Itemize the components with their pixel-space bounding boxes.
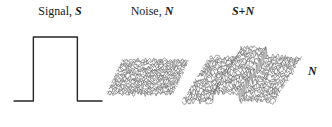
noise-label-symbol: N — [165, 4, 174, 18]
signal-noise-figure: Signal, S Noise, N S+N N — [0, 0, 332, 127]
signal-plus-noise-waterfall-svg — [178, 22, 306, 114]
corner-noise-label: N — [308, 65, 317, 77]
signal-label-symbol: S — [75, 4, 82, 18]
signal-pulse-plot — [12, 33, 104, 107]
corner-noise-symbol: N — [308, 64, 317, 78]
noise-label-text: Noise, — [131, 4, 165, 18]
signal-plus-noise-waterfall-plot — [178, 22, 306, 114]
sum-label-symbol: S+N — [232, 4, 254, 18]
sum-panel-label: S+N — [208, 4, 278, 18]
signal-pulse-svg — [12, 33, 104, 107]
signal-panel-label: Signal, S — [18, 4, 102, 18]
noise-panel-label: Noise, N — [112, 4, 192, 18]
signal-label-text: Signal, — [38, 4, 75, 18]
